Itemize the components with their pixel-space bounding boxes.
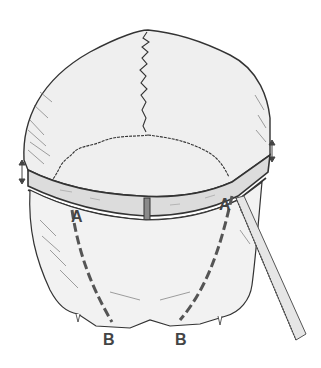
label-b-right: B [175, 331, 187, 348]
skull-illustration: A A B B [0, 0, 321, 368]
movement-arrow-left [19, 160, 25, 184]
label-b-left: B [103, 331, 115, 348]
label-a-left: A [71, 208, 83, 225]
label-a-right: A [219, 196, 231, 213]
skull-cap [19, 30, 275, 197]
band-clasp [144, 198, 150, 220]
